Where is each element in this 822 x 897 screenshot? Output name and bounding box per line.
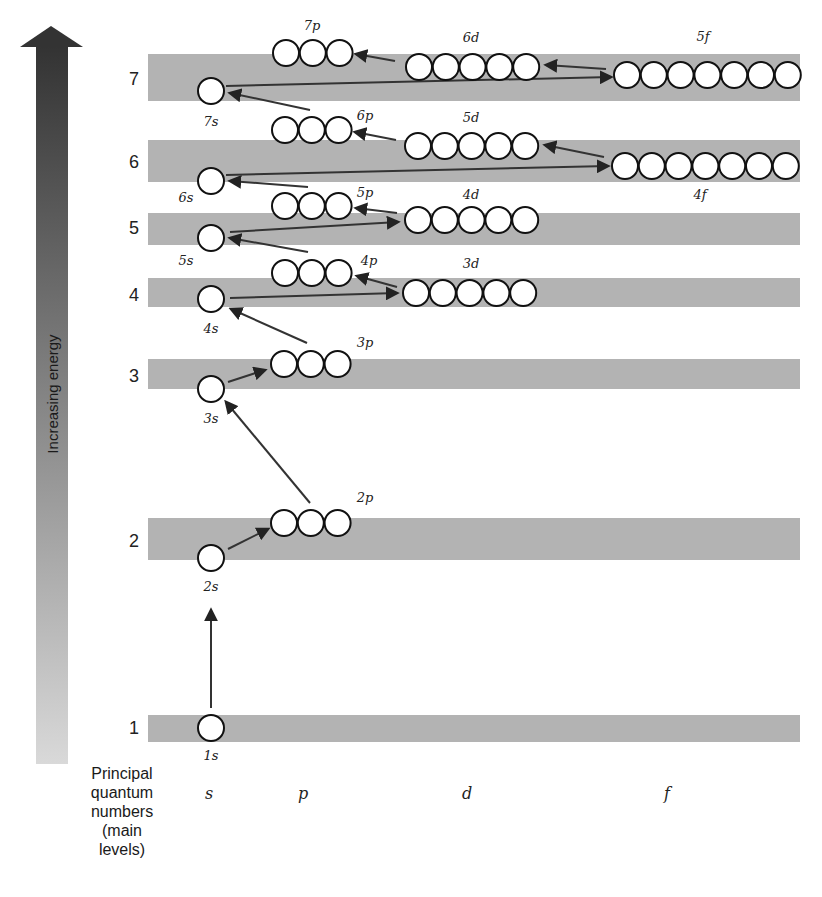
orbital-circle bbox=[694, 62, 720, 88]
orbital-circle bbox=[773, 153, 799, 179]
arrow-3p-to-4s bbox=[231, 309, 307, 343]
subshell-label: 5p bbox=[357, 185, 374, 200]
level-label: 7 bbox=[129, 69, 139, 89]
orbital-3d bbox=[403, 280, 536, 306]
subshell-label: 2p bbox=[356, 490, 374, 505]
orbital-circle bbox=[459, 207, 485, 233]
orbital-circle bbox=[746, 153, 772, 179]
pqn-line: numbers bbox=[72, 802, 172, 821]
column-label-s: s bbox=[205, 784, 213, 803]
energy-arrowhead-icon bbox=[20, 26, 83, 47]
pqn-line: Principal bbox=[72, 764, 172, 783]
orbital-circle bbox=[326, 193, 352, 219]
orbital-circle bbox=[433, 54, 459, 80]
orbital-2s bbox=[198, 545, 224, 571]
orbital-6s bbox=[198, 168, 224, 194]
subshell-label: 3p bbox=[357, 335, 374, 350]
orbital-4p bbox=[272, 260, 352, 286]
orbital-circle bbox=[485, 207, 511, 233]
orbital-circle bbox=[432, 207, 458, 233]
arrow-4d-to-5p bbox=[356, 208, 397, 213]
orbital-circle bbox=[299, 260, 325, 286]
orbital-circle bbox=[403, 280, 429, 306]
subshell-label: 4p bbox=[360, 253, 378, 268]
subshell-label: 3d bbox=[463, 256, 480, 271]
orbital-circle bbox=[325, 351, 351, 377]
orbital-circle bbox=[483, 280, 509, 306]
level-label: 2 bbox=[129, 531, 139, 551]
subshell-label: 7p bbox=[304, 18, 321, 33]
orbital-circle bbox=[272, 260, 298, 286]
subshell-label: 6s bbox=[179, 190, 194, 205]
orbital-5d bbox=[405, 133, 538, 159]
increasing-energy-arrow: Increasing energy bbox=[20, 26, 83, 764]
orbital-circle bbox=[198, 78, 224, 104]
subshell-label: 7s bbox=[204, 114, 219, 129]
orbital-circle bbox=[612, 153, 638, 179]
subshell-label: 2s bbox=[203, 579, 219, 594]
orbital-circle bbox=[198, 376, 224, 402]
orbital-5p bbox=[272, 193, 352, 219]
orbital-1s bbox=[198, 715, 224, 741]
subshell-labels: 1s2s2p3s3p4s3d4p5s4d5p6s4f5d6p7s5f6d7p bbox=[179, 18, 712, 763]
orbital-circle bbox=[299, 117, 325, 143]
orbital-circle bbox=[614, 62, 640, 88]
orbital-circle bbox=[405, 207, 431, 233]
orbital-circle bbox=[510, 280, 536, 306]
orbital-7s bbox=[198, 78, 224, 104]
orbital-3p bbox=[271, 351, 351, 377]
subshell-label: 4d bbox=[462, 187, 480, 202]
orbital-circle bbox=[457, 280, 483, 306]
orbital-circle bbox=[666, 153, 692, 179]
energy-band-3 bbox=[148, 359, 800, 389]
orbital-circle bbox=[273, 40, 299, 66]
orbital-5s bbox=[198, 225, 224, 251]
orbital-circle bbox=[512, 207, 538, 233]
orbital-circle bbox=[721, 62, 747, 88]
orbital-circle bbox=[432, 133, 458, 159]
orbital-circle bbox=[298, 510, 324, 536]
orbital-circle bbox=[486, 54, 512, 80]
level-label: 4 bbox=[129, 285, 139, 305]
orbital-circle bbox=[641, 62, 667, 88]
orbital-circle bbox=[513, 54, 539, 80]
orbital-3s bbox=[198, 376, 224, 402]
orbital-circle bbox=[198, 225, 224, 251]
orbital-circle bbox=[198, 286, 224, 312]
level-label: 3 bbox=[129, 366, 139, 386]
orbital-circle bbox=[198, 545, 224, 571]
arrow-5d-to-6p bbox=[355, 132, 396, 140]
orbital-circle bbox=[719, 153, 745, 179]
orbital-circle bbox=[272, 193, 298, 219]
orbital-circle bbox=[775, 62, 801, 88]
column-label-d: d bbox=[462, 784, 472, 803]
energy-band-1 bbox=[148, 715, 800, 742]
orbital-2p bbox=[271, 510, 351, 536]
column-label-f: f bbox=[663, 784, 673, 803]
orbital-circle bbox=[300, 40, 326, 66]
orbital-circle bbox=[692, 153, 718, 179]
principal-level-labels: 7654321 bbox=[129, 69, 139, 738]
orbital-circle bbox=[271, 510, 297, 536]
orbital-circle bbox=[326, 260, 352, 286]
orbital-circle bbox=[271, 351, 297, 377]
subshell-label: 5d bbox=[463, 110, 480, 125]
subshell-label: 1s bbox=[204, 748, 219, 763]
level-label: 6 bbox=[129, 152, 139, 172]
orbital-circle bbox=[459, 133, 485, 159]
orbital-4s bbox=[198, 286, 224, 312]
orbital-6d bbox=[406, 54, 539, 80]
orbital-circle bbox=[668, 62, 694, 88]
orbital-circle bbox=[748, 62, 774, 88]
pqn-line: (main bbox=[72, 821, 172, 840]
orbital-4d bbox=[405, 207, 538, 233]
orbital-circle bbox=[198, 715, 224, 741]
column-label-p: p bbox=[298, 784, 308, 803]
subshell-label: 5f bbox=[696, 29, 711, 44]
arrow-2p-to-3s bbox=[226, 402, 310, 503]
subshell-label: 3s bbox=[204, 411, 219, 426]
orbital-circle bbox=[325, 510, 351, 536]
orbital-circle bbox=[299, 193, 325, 219]
orbital-6p bbox=[272, 117, 352, 143]
orbital-circle bbox=[298, 351, 324, 377]
